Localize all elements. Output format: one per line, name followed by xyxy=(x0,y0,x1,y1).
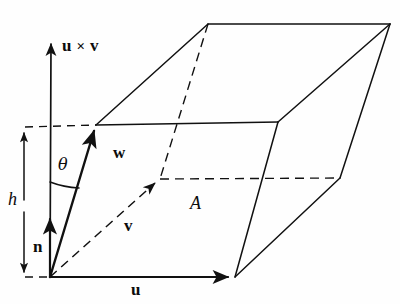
label-cross-product-axis: u×v xyxy=(62,37,99,54)
edge-topfrontright-utip xyxy=(235,122,278,277)
hidden-edges xyxy=(160,24,340,179)
edge-basefarcorner-utip xyxy=(235,178,340,277)
angle-theta-arc xyxy=(50,182,79,188)
edge-topfrontleft-topbackleft xyxy=(96,24,208,125)
vector-w-arrow xyxy=(50,131,94,277)
label-height-h: h xyxy=(8,190,17,208)
figure-canvas: u×v w v u n h θ A xyxy=(0,0,400,304)
edge-topfrontleft-topfrontright xyxy=(96,122,278,125)
label-vector-u: u xyxy=(131,281,140,298)
side-face-edges xyxy=(235,24,390,277)
cross-symbol-icon: × xyxy=(71,38,90,54)
edge-topbackleft-vtip-dashed xyxy=(160,24,208,179)
guide-h-top-dashed xyxy=(25,125,96,127)
label-vector-w: w xyxy=(113,144,125,161)
edge-topbackright-topfrontright xyxy=(278,24,390,122)
label-vector-v: v xyxy=(124,217,133,234)
label-angle-theta: θ xyxy=(58,157,68,173)
parallelepiped-drawing xyxy=(0,0,400,304)
edge-topbackright-basefarcorner xyxy=(340,24,390,178)
edge-vtip-basefarcorner-dashed xyxy=(160,178,340,179)
top-face-edges xyxy=(96,24,390,125)
vector-v-arrow xyxy=(50,183,155,277)
label-area-a: A xyxy=(190,194,201,212)
label-v-part: v xyxy=(90,36,99,55)
label-vector-n: n xyxy=(33,238,42,255)
